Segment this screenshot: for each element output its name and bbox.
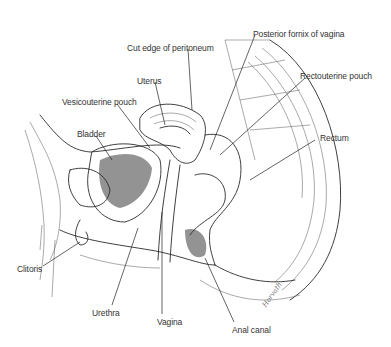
label-vesicouterine-pouch: Vesicouterine pouch — [62, 97, 137, 107]
label-rectouterine-pouch: Rectouterine pouch — [300, 71, 372, 81]
label-urethra: Urethra — [92, 308, 120, 318]
label-rectum: Rectum — [320, 133, 349, 143]
label-uterus: Uterus — [137, 76, 161, 86]
anatomy-figure: Cut edge of peritoneum Posterior fornix … — [0, 0, 391, 347]
label-cut-edge-of-peritoneum: Cut edge of peritoneum — [127, 43, 214, 53]
label-clitoris: Clitoris — [17, 264, 42, 274]
label-bladder: Bladder — [77, 129, 106, 139]
label-anal-canal: Anal canal — [232, 325, 271, 335]
label-posterior-fornix-of-vagina: Posterior fornix of vagina — [253, 29, 344, 39]
label-vagina: Vagina — [157, 317, 182, 327]
